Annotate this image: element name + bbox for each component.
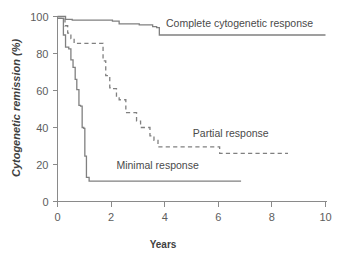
chart-tick-marks [53, 17, 326, 207]
chart-series-curves [58, 17, 326, 182]
y-tick-label: 20 [36, 159, 48, 171]
series-label-0: Complete cytogenetic response [166, 17, 313, 29]
chart-plot-svg: 0246810 020406080100 Complete cytogeneti… [0, 0, 342, 257]
chart-axes [58, 16, 327, 202]
series-label-1: Partial response [193, 127, 269, 139]
x-tick-label: 8 [269, 211, 275, 223]
y-tick-label: 40 [36, 122, 48, 134]
series-label-2: Minimal response [116, 159, 198, 171]
y-axis-tick-labels: 020406080100 [30, 11, 48, 208]
y-tick-label: 80 [36, 48, 48, 60]
x-tick-label: 10 [319, 211, 331, 223]
x-tick-label: 2 [108, 211, 114, 223]
y-tick-label: 60 [36, 85, 48, 97]
x-axis-tick-labels: 0246810 [54, 211, 331, 223]
chart-series-annotations: Complete cytogenetic responsePartial res… [116, 17, 313, 171]
y-tick-label: 100 [30, 11, 48, 23]
x-tick-label: 0 [54, 211, 60, 223]
y-tick-label: 0 [42, 196, 48, 208]
chart-figure: 0246810 020406080100 Complete cytogeneti… [0, 0, 342, 257]
x-tick-label: 4 [162, 211, 168, 223]
y-axis-title: Cytogenetic remission (%) [10, 39, 22, 177]
x-tick-label: 6 [215, 211, 221, 223]
x-axis-title: Years [150, 239, 177, 250]
